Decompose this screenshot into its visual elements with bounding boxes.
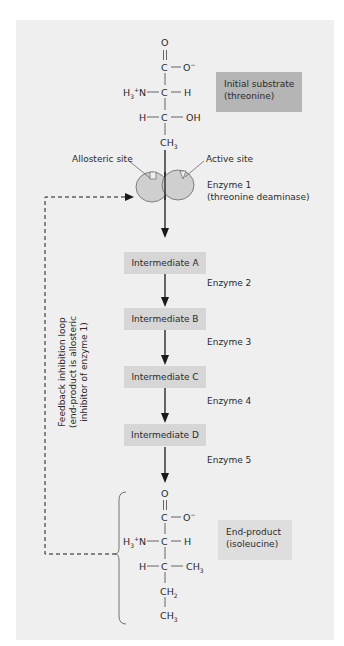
atom-c: C	[161, 512, 168, 523]
atom-h: H	[184, 536, 191, 547]
enzyme-5-label: Enzyme 5	[207, 455, 251, 466]
active-site-label: Active site	[206, 154, 253, 165]
atom-o-minus: O−	[183, 512, 196, 523]
allosteric-site-label: Allosteric site	[72, 154, 133, 165]
atom-ch3: CH3	[160, 137, 178, 148]
enzyme-3-label: Enzyme 3	[207, 337, 251, 348]
atom-c: C	[161, 561, 168, 572]
intermediate-c-box: Intermediate C	[124, 366, 206, 388]
end-product-box: End-product (isoleucine)	[218, 520, 292, 560]
intermediate-a-box: Intermediate A	[124, 252, 206, 274]
end-product-label: End-product	[226, 526, 281, 538]
atom-h: H	[139, 561, 146, 572]
enzyme-2-label: Enzyme 2	[207, 278, 251, 289]
enzyme-1-name: (threonine deaminase)	[207, 192, 310, 203]
enzyme-4-label: Enzyme 4	[207, 396, 251, 407]
end-product-brace	[115, 492, 126, 624]
intermediate-d-box: Intermediate D	[124, 424, 206, 446]
intermediate-b-box: Intermediate B	[124, 308, 206, 330]
atom-h: H	[139, 112, 146, 123]
atom-c: C	[161, 112, 168, 123]
initial-substrate-name: (threonine)	[224, 90, 274, 102]
atom-ch3: CH3	[160, 610, 178, 621]
initial-substrate-box: Initial substrate (threonine)	[216, 72, 302, 112]
enzyme-1-shape	[136, 170, 194, 202]
atom-o: O	[161, 488, 168, 499]
feedback-loop-label: Feedback inhibition loop (end-product is…	[57, 292, 90, 452]
atom-h: H	[184, 87, 191, 98]
atom-c: C	[161, 536, 168, 547]
atom-ch3: CH3	[186, 561, 204, 572]
atom-o-minus: O−	[183, 62, 196, 73]
atom-c: C	[161, 62, 168, 73]
atom-nh3: H3+N	[123, 87, 146, 98]
atom-o: O	[161, 37, 168, 48]
end-product-name: (isoleucine)	[226, 538, 278, 550]
initial-substrate-label: Initial substrate	[224, 78, 294, 90]
atom-ch2: CH2	[160, 586, 178, 597]
atom-oh: OH	[186, 112, 201, 123]
atom-nh3: H3+N	[123, 536, 146, 547]
enzyme-1-label: Enzyme 1	[207, 180, 251, 191]
atom-c: C	[161, 87, 168, 98]
